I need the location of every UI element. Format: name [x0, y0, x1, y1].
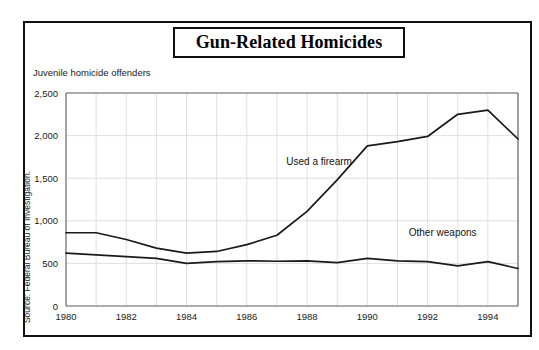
chart-source-note: Source: Federal Bureau of Investigation.: [22, 152, 32, 342]
x-axis-tick-label: 1980: [55, 311, 76, 322]
chart-title-box: Gun-Related Homicides: [173, 27, 405, 58]
x-axis-tick-label: 1986: [236, 311, 257, 322]
chart-x-tick-labels: 19801982198419861988199019921994: [55, 311, 498, 322]
y-axis-tick-label: 500: [42, 258, 58, 269]
x-axis-tick-label: 1994: [477, 311, 498, 322]
y-axis-tick-label: 0: [53, 301, 58, 312]
chart-y-tick-labels: 05001,0001,5002,0002,500: [34, 88, 58, 312]
x-axis-tick-label: 1992: [417, 311, 438, 322]
chart-figure: Gun-Related Homicides Juvenile homicide …: [0, 0, 539, 350]
y-axis-tick-label: 1,500: [34, 173, 58, 184]
x-axis-tick-label: 1988: [296, 311, 317, 322]
chart-series-annotations: Used a firearmOther weapons: [286, 156, 476, 239]
y-axis-tick-label: 1,000: [34, 215, 58, 226]
chart-axes: [66, 93, 518, 306]
chart-subtitle: Juvenile homicide offenders: [33, 67, 151, 78]
page-title: Gun-Related Homicides: [196, 32, 383, 53]
y-axis-tick-label: 2,500: [34, 88, 58, 99]
y-axis-tick-label: 2,000: [34, 130, 58, 141]
series-line: [66, 253, 518, 268]
series-annotation-label: Used a firearm: [286, 156, 352, 167]
x-axis-tick-label: 1984: [176, 311, 197, 322]
chart-gridlines: [66, 93, 518, 306]
x-axis-tick-label: 1982: [116, 311, 137, 322]
x-axis-tick-label: 1990: [357, 311, 378, 322]
series-annotation-label: Other weapons: [409, 227, 477, 238]
chart-series-lines: [66, 110, 518, 268]
